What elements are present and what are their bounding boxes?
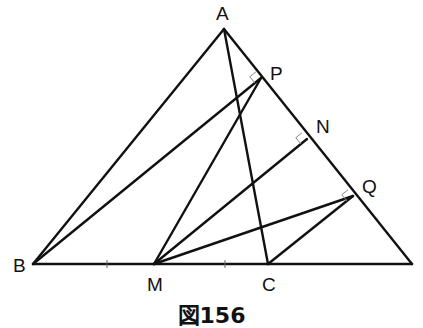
segment-BP xyxy=(33,78,261,264)
segment-AR xyxy=(224,29,412,264)
right-angle-mark-N xyxy=(296,133,302,144)
label-N: N xyxy=(316,116,330,137)
label-B: B xyxy=(13,255,26,276)
inner-segments xyxy=(33,29,353,264)
segment-MQ xyxy=(154,196,353,264)
label-A: A xyxy=(216,3,229,24)
label-Q: Q xyxy=(362,176,377,197)
geometry-diagram: A B M C P N Q xyxy=(0,0,423,328)
right-angle-mark-P xyxy=(250,72,256,83)
segment-MP xyxy=(154,78,261,264)
label-P: P xyxy=(270,63,283,84)
right-angle-marks xyxy=(250,72,348,201)
segment-MN xyxy=(154,139,307,264)
segment-AC xyxy=(224,29,268,264)
segment-CQ xyxy=(268,196,353,264)
label-C: C xyxy=(262,274,276,295)
figure-caption: 図156 xyxy=(0,297,423,328)
label-M: M xyxy=(147,274,163,295)
